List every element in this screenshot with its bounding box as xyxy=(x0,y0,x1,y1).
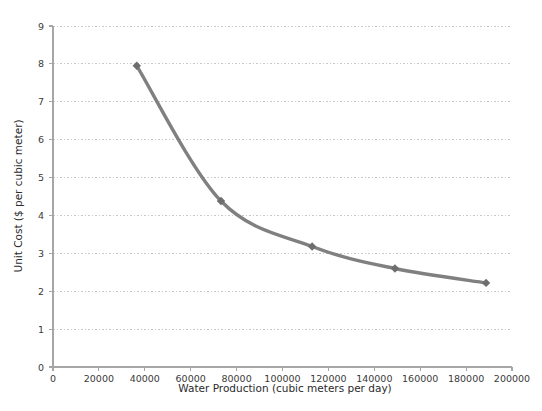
x-tick-label: 200000 xyxy=(494,373,530,384)
chart-background xyxy=(0,0,542,411)
y-tick-label: 7 xyxy=(38,96,44,107)
y-tick-label: 8 xyxy=(38,58,44,69)
x-axis-title: Water Production (cubic meters per day) xyxy=(178,382,391,394)
y-tick-label: 0 xyxy=(38,362,44,373)
x-tick-label: 40000 xyxy=(130,373,160,384)
x-tick-label: 20000 xyxy=(84,373,114,384)
y-tick-label: 1 xyxy=(38,324,44,335)
y-tick-label: 5 xyxy=(38,172,44,183)
x-tick-label: 160000 xyxy=(402,373,438,384)
y-tick-label: 4 xyxy=(38,210,44,221)
y-tick-label: 2 xyxy=(38,286,44,297)
y-tick-label: 3 xyxy=(38,248,44,259)
y-tick-label: 6 xyxy=(38,134,44,145)
x-tick-label: 180000 xyxy=(448,373,484,384)
chart-container: 0123456789 02000040000600008000010000012… xyxy=(0,0,542,411)
line-chart: 0123456789 02000040000600008000010000012… xyxy=(0,0,542,411)
y-axis-title: Unit Cost ($ per cubic meter) xyxy=(12,119,24,272)
y-tick-label: 9 xyxy=(38,21,44,32)
x-tick-label: 0 xyxy=(50,373,56,384)
